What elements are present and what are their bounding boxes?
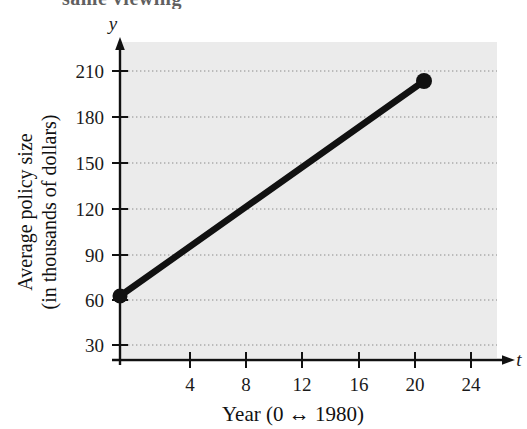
y-axis-title-line2: (in thousands of dollars) bbox=[38, 115, 61, 310]
y-axis-title: Average policy size (in thousands of dol… bbox=[14, 115, 61, 310]
y-tick-labels: 210 180 150 120 90 60 30 bbox=[76, 61, 105, 356]
data-point-end bbox=[416, 73, 432, 89]
figure-container: same viewing bbox=[0, 0, 527, 429]
x-tick-label-16: 16 bbox=[350, 374, 369, 395]
y-tick-label-120: 120 bbox=[76, 199, 105, 220]
x-tick-label-8: 8 bbox=[241, 374, 251, 395]
x-tick-label-4: 4 bbox=[185, 374, 195, 395]
data-point-start bbox=[113, 289, 128, 304]
y-axis-variable-label: y bbox=[107, 13, 118, 34]
y-tick-label-150: 150 bbox=[76, 153, 105, 174]
line-chart: 210 180 150 120 90 60 30 4 8 12 16 20 24… bbox=[0, 0, 527, 429]
x-axis-arrowhead bbox=[502, 355, 515, 365]
y-tick-label-210: 210 bbox=[76, 61, 105, 82]
y-tick-label-60: 60 bbox=[85, 290, 104, 311]
x-tick-label-12: 12 bbox=[293, 374, 312, 395]
x-tick-labels: 4 8 12 16 20 24 bbox=[185, 374, 481, 395]
y-tick-label-90: 90 bbox=[85, 245, 104, 266]
plot-area-background bbox=[120, 42, 497, 358]
y-axis-title-line1: Average policy size bbox=[14, 133, 37, 290]
x-axis-title: Year (0 ↔ 1980) bbox=[222, 402, 364, 426]
x-tick-label-24: 24 bbox=[462, 374, 482, 395]
x-axis-variable-label: t bbox=[516, 349, 522, 370]
x-tick-label-20: 20 bbox=[406, 374, 425, 395]
y-tick-label-180: 180 bbox=[76, 107, 105, 128]
y-tick-label-30: 30 bbox=[85, 335, 104, 356]
